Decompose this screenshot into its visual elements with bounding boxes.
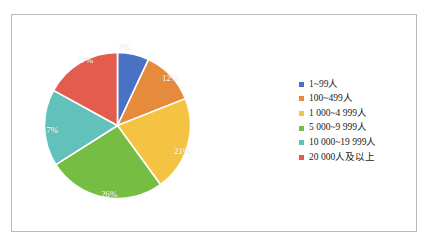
legend-swatch-icon <box>299 96 304 101</box>
legend-item: 100~499人 <box>299 92 411 107</box>
legend-item-label: 100~499人 <box>309 94 353 104</box>
legend-item-label: 5 000~9 999人 <box>309 123 367 133</box>
legend-item-label: 1~99人 <box>309 80 338 90</box>
legend-swatch-icon <box>299 155 304 160</box>
legend-swatch-icon <box>299 111 304 116</box>
legend-item-label: 20 000人及以上 <box>309 153 375 163</box>
legend-swatch-icon <box>299 82 304 87</box>
pie-slice-label: 21% <box>174 146 190 156</box>
legend-item-label: 10 000~19 999人 <box>309 138 376 148</box>
legend-item-label: 1 000~4 999人 <box>309 109 367 119</box>
legend-item: 1 000~4 999人 <box>299 106 411 121</box>
legend-item: 10 000~19 999人 <box>299 135 411 150</box>
legend-swatch-icon <box>299 126 304 131</box>
pie-slice-label: 17% <box>42 125 58 135</box>
legend-swatch-icon <box>299 140 304 145</box>
legend-item: 5 000~9 999人 <box>299 121 411 136</box>
legend-item: 1~99人 <box>299 77 411 92</box>
pie-slice-label: 26% <box>101 189 117 199</box>
chart-legend: 1~99人100~499人1 000~4 999人5 000~9 999人10 … <box>299 77 411 165</box>
pie-slice-label: 17% <box>77 55 93 65</box>
pie-slice-label: 7% <box>118 42 130 52</box>
chart-plot-area: 7%12%21%26%17%17% 1~99人100~499人1 000~4 9… <box>0 0 430 249</box>
pie-slice-label: 12% <box>162 73 178 83</box>
legend-item: 20 000人及以上 <box>299 150 411 165</box>
pie-chart-figure: 7%12%21%26%17%17% 1~99人100~499人1 000~4 9… <box>0 0 430 249</box>
